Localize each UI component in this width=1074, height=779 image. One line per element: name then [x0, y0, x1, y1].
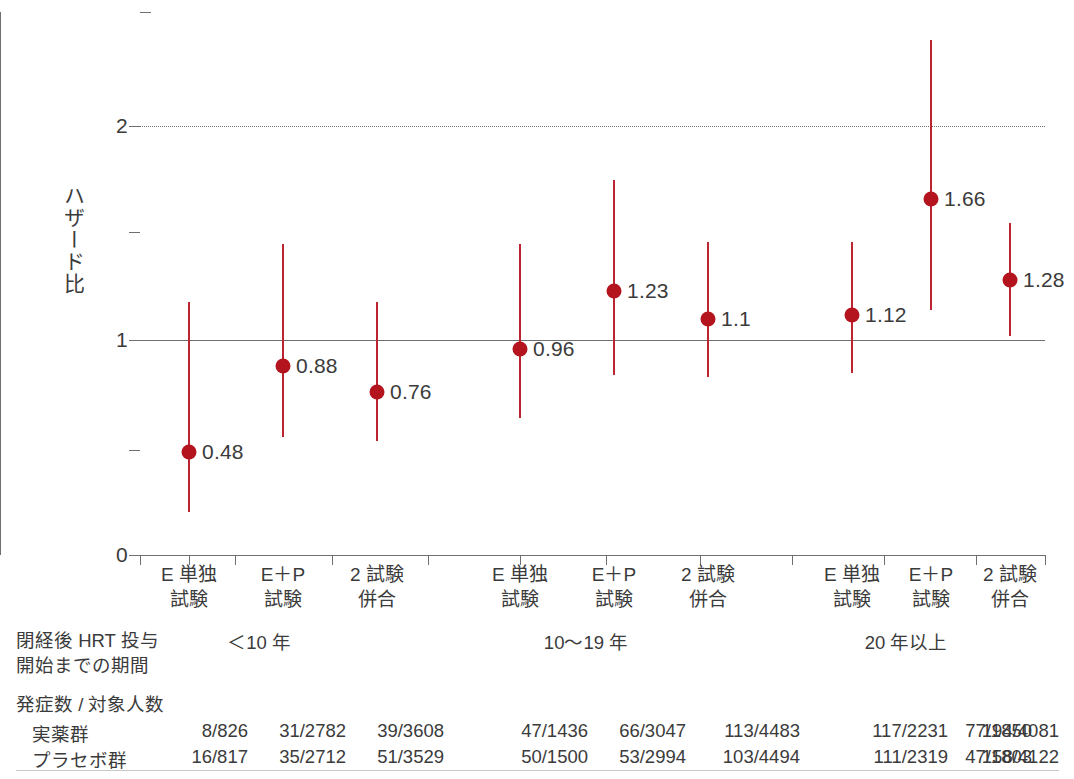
error-bar: [376, 302, 378, 441]
reference-line-1: [140, 340, 1045, 341]
data-point-value-label: 1.1: [721, 307, 751, 331]
error-bar: [519, 244, 521, 418]
count-placebo-6: 111/2319: [874, 746, 948, 768]
category-line-1: 2 試験: [317, 562, 437, 587]
y-tick-label-0: 0: [116, 543, 128, 567]
data-point-value-label: 1.66: [944, 187, 986, 211]
x-category-label-5: 2 試験併合: [648, 562, 768, 612]
count-active-6: 117/2231: [872, 720, 948, 742]
data-point-marker: [370, 384, 385, 399]
count-placebo-8: 158/4122: [982, 746, 1059, 768]
y-tick-label-1: 1: [116, 328, 128, 352]
count-active-2: 39/3608: [377, 720, 444, 742]
period-label: 閉経後 HRT 投与 開始までの期間: [16, 628, 159, 678]
row-label-active: 実薬群: [32, 720, 89, 746]
plot-area: [140, 12, 1045, 555]
data-point-value-label: 1.28: [1023, 268, 1065, 292]
data-point-value-label: 1.23: [627, 279, 669, 303]
error-bar: [282, 244, 284, 437]
count-active-4: 66/3047: [619, 720, 686, 742]
row-label-placebo: プラセボ群: [32, 746, 127, 772]
data-point-marker: [276, 359, 291, 374]
data-point-value-label: 0.48: [202, 440, 244, 464]
data-point-value-label: 1.12: [865, 303, 907, 327]
error-bar: [613, 180, 615, 375]
data-point-value-label: 0.88: [296, 354, 338, 378]
category-line-2: 併合: [950, 587, 1070, 612]
count-placebo-0: 16/817: [191, 746, 248, 768]
reference-line-2: [140, 126, 1045, 127]
error-bar: [930, 40, 932, 310]
y-axis-label-column: 2 1 0: [96, 0, 128, 579]
data-point-value-label: 0.76: [390, 380, 432, 404]
error-bar: [188, 302, 190, 512]
count-placebo-5: 103/4494: [723, 746, 800, 768]
x-category-label-8: 2 試験併合: [950, 562, 1070, 612]
counts-title: 発症数 / 対象人数: [16, 690, 164, 716]
count-placebo-2: 51/3529: [377, 746, 444, 768]
y-tick-1p5: [129, 232, 140, 233]
data-point-marker: [845, 307, 860, 322]
group-header-2: 20 年以上: [806, 628, 1006, 654]
category-line-1: 2 試験: [950, 562, 1070, 587]
x-category-label-2: 2 試験併合: [317, 562, 437, 612]
count-active-8: 194/4081: [982, 720, 1059, 742]
x-axis-line: [140, 555, 1045, 556]
count-active-3: 47/1436: [521, 720, 588, 742]
data-point-marker: [701, 312, 716, 327]
y-axis-title: ハザード比: [54, 185, 84, 295]
forest-plot-figure: ハザード比 2 1 0 0.480.880.760.961.231.11.121…: [0, 0, 1074, 779]
y-tick-0: [129, 555, 140, 556]
data-point-value-label: 0.96: [533, 337, 575, 361]
data-point-marker: [513, 342, 528, 357]
count-active-0: 8/826: [202, 720, 248, 742]
y-tick-1: [129, 340, 140, 341]
y-axis-line: [0, 12, 1, 555]
group-header-1: 10〜19 年: [486, 628, 686, 654]
y-tick-0p5: [129, 450, 140, 451]
data-point-marker: [1003, 273, 1018, 288]
data-point-marker: [924, 191, 939, 206]
data-point-marker: [182, 445, 197, 460]
count-placebo-4: 53/2994: [619, 746, 686, 768]
category-line-2: 併合: [317, 587, 437, 612]
count-placebo-3: 50/1500: [521, 746, 588, 768]
category-line-1: 2 試験: [648, 562, 768, 587]
error-bar: [707, 242, 709, 377]
y-tick-label-2: 2: [116, 114, 128, 138]
group-header-0: ＜10 年: [159, 628, 359, 654]
count-active-5: 113/4483: [724, 720, 800, 742]
count-placebo-1: 35/2712: [279, 746, 346, 768]
y-tick-2: [129, 126, 140, 127]
count-active-1: 31/2782: [279, 720, 346, 742]
bottom-divider: [16, 770, 1059, 771]
category-line-2: 併合: [648, 587, 768, 612]
data-point-marker: [607, 284, 622, 299]
